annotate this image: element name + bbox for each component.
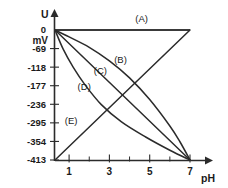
x-tick-label: 1	[66, 166, 72, 177]
x-axis-title: pH	[201, 172, 215, 184]
x-tick-label: 5	[147, 166, 153, 177]
chart-figure: 0-69-118-177-236-295-354-413 1357 (A)(B)…	[0, 0, 228, 188]
y-tick-label: 0	[41, 24, 46, 35]
y-axis-title: U	[41, 8, 49, 20]
curve-label-d: (D)	[78, 81, 91, 92]
y-tick-label: -236	[27, 99, 46, 110]
x-tick-label: 3	[107, 166, 113, 177]
y-tick-label: -413	[27, 154, 46, 165]
y-tick-label: -118	[28, 62, 47, 73]
y-axis-unit-label: mV	[32, 35, 48, 46]
x-tick-label: 7	[187, 166, 193, 177]
y-tick-label: -354	[27, 136, 47, 147]
curve-label-a: (A)	[135, 13, 148, 24]
curve-label-c: (C)	[94, 65, 107, 76]
curve-label-e: (E)	[65, 115, 78, 126]
curve-label-b: (B)	[114, 54, 127, 65]
y-tick-label: -177	[27, 80, 46, 91]
potential-vs-ph-chart: 0-69-118-177-236-295-354-413 1357 (A)(B)…	[0, 0, 228, 188]
y-tick-label: -295	[27, 117, 47, 128]
